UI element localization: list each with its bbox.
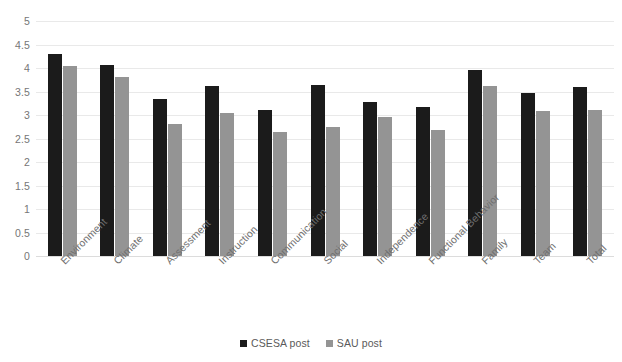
bar (378, 117, 392, 256)
bar (573, 87, 587, 256)
x-axis-label: Social (321, 258, 329, 266)
x-axis-label: Total (584, 258, 592, 266)
bar-group (363, 21, 392, 256)
bar (431, 130, 445, 256)
bar (416, 107, 430, 256)
x-axis-label: Assessment (163, 258, 171, 266)
bar (588, 110, 602, 256)
y-axis-tick: 0 (0, 251, 30, 261)
bars-layer (36, 21, 614, 256)
legend-label: SAU post (337, 338, 382, 349)
bar-group (521, 21, 550, 256)
x-axis-label: Independence (374, 258, 382, 266)
bar-group (258, 21, 287, 256)
bar-group (205, 21, 234, 256)
bar (311, 85, 325, 256)
bar (483, 86, 497, 256)
y-axis-tick: 3 (0, 110, 30, 120)
bar (115, 77, 129, 256)
plot-area (36, 21, 614, 256)
y-axis-tick: 2.5 (0, 134, 30, 144)
chart-legend: CSESA postSAU post (0, 338, 622, 349)
y-axis-tick: 5 (0, 16, 30, 26)
bar-chart: 54.543.532.521.510.50 EnvironmentClimate… (0, 0, 622, 362)
y-axis: 54.543.532.521.510.50 (0, 21, 30, 256)
x-axis-label: Climate (111, 258, 119, 266)
x-axis-label: Environment (58, 258, 66, 266)
x-axis-label: Communication (268, 258, 276, 266)
bar (63, 66, 77, 256)
bar (48, 54, 62, 256)
bar (168, 124, 182, 256)
y-axis-tick: 2 (0, 157, 30, 167)
bar (258, 110, 272, 256)
y-axis-tick: 1 (0, 204, 30, 214)
x-axis-label: Functional Behavior (426, 258, 434, 266)
bar (363, 102, 377, 256)
bar (220, 113, 234, 256)
x-axis-label: Family (479, 258, 487, 266)
legend-swatch-icon (240, 340, 247, 347)
x-axis-label: Instruction (216, 258, 224, 266)
bar-group (573, 21, 602, 256)
legend-swatch-icon (326, 340, 333, 347)
bar (326, 127, 340, 256)
bar-group (48, 21, 77, 256)
bar (153, 99, 167, 256)
bar (521, 93, 535, 256)
y-axis-tick: 3.5 (0, 87, 30, 97)
y-axis-tick: 1.5 (0, 181, 30, 191)
legend-label: CSESA post (251, 338, 310, 349)
legend-item: CSESA post (240, 338, 310, 349)
bar-group (153, 21, 182, 256)
bar (536, 111, 550, 256)
x-axis-label: Team (531, 258, 539, 266)
bar (273, 132, 287, 256)
y-axis-tick: 4.5 (0, 40, 30, 50)
legend-item: SAU post (326, 338, 382, 349)
y-axis-tick: 0.5 (0, 228, 30, 238)
y-axis-tick: 4 (0, 63, 30, 73)
x-axis-labels: EnvironmentClimateAssessmentInstructionC… (36, 258, 614, 328)
